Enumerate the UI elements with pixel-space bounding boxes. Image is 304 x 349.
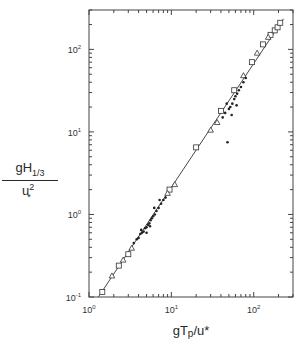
- data-point-square: [232, 88, 237, 93]
- data-point-dot: [148, 222, 151, 225]
- data-point-dot: [153, 207, 156, 210]
- data-point-dot: [160, 202, 163, 205]
- data-point-square: [261, 42, 266, 47]
- data-point-dot: [154, 213, 157, 216]
- data-point-dot: [140, 229, 143, 232]
- data-point-square: [218, 108, 223, 113]
- data-point-dot: [238, 89, 241, 92]
- data-point-dot: [231, 102, 234, 105]
- data-point-dot: [230, 114, 233, 117]
- plot-border: [89, 10, 293, 297]
- data-point-triangle: [120, 257, 126, 262]
- y-axis-title: gH1/3 u2*: [2, 160, 58, 198]
- data-point-dot: [234, 95, 237, 98]
- tick-label: 102: [68, 44, 82, 55]
- data-point-dot: [142, 230, 145, 233]
- data-point-dot: [145, 231, 148, 234]
- data-point-dot: [226, 141, 229, 144]
- data-point-dot: [137, 237, 140, 240]
- data-point-square: [249, 60, 254, 65]
- data-point-dot: [221, 116, 224, 119]
- tick-label: 101: [68, 127, 82, 138]
- data-point-dot: [244, 77, 247, 80]
- data-point-dot: [229, 106, 232, 109]
- tick-label: 101: [165, 304, 179, 315]
- data-point-square: [278, 20, 283, 25]
- data-point-dot: [240, 86, 243, 89]
- axis-ticks: [89, 10, 293, 297]
- data-point-triangle: [172, 182, 178, 187]
- data-point-triangle: [208, 127, 214, 132]
- data-point-dot: [162, 199, 165, 202]
- data-point-dot: [235, 104, 238, 107]
- data-point-square: [116, 263, 121, 268]
- data-point-dot: [224, 112, 227, 115]
- x-axis-title: gTp/u*: [173, 323, 210, 339]
- plot-frame: [89, 10, 293, 297]
- data-point-square: [194, 145, 199, 150]
- data-point-square: [126, 252, 131, 257]
- data-point-dot: [155, 210, 158, 213]
- data-point-dot: [133, 242, 136, 245]
- data-point-triangle: [129, 245, 135, 250]
- tick-label: 100: [82, 304, 96, 315]
- data-point-dot: [149, 225, 152, 228]
- tick-label: 102: [247, 304, 261, 315]
- data-point-square: [100, 289, 105, 294]
- data-point-dot: [164, 196, 167, 199]
- tick-label: 100: [68, 209, 82, 220]
- data-point-dot: [158, 199, 161, 202]
- data-point-dot: [145, 226, 148, 229]
- data-point-dot: [157, 207, 160, 210]
- data-point-triangle: [254, 50, 260, 55]
- tick-label: 10-1: [66, 292, 82, 303]
- data-point-dot: [225, 102, 228, 105]
- data-point-dot: [233, 98, 236, 101]
- data-point-dot: [236, 92, 239, 95]
- data-point-dot: [242, 81, 245, 84]
- tick-labels: 10010110210-1100101102: [66, 44, 261, 315]
